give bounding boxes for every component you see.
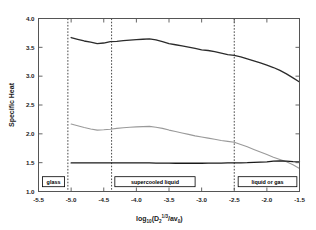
- xtick-label: -3.0: [196, 196, 207, 203]
- xlabel-d-sub: 2: [159, 219, 162, 224]
- xtick-label: -5.5: [33, 196, 44, 203]
- ytick-label: 2.0: [26, 130, 35, 137]
- ytick-label: 3.0: [26, 72, 35, 79]
- specific-heat-plot: -5.5-5.0-4.5-4.0-3.5-3.0-2.5-2.0-1.5 1.0…: [0, 0, 316, 230]
- ytick-label: 1.5: [26, 159, 35, 166]
- xtick-label: -2.0: [262, 196, 273, 203]
- xlabel-mid: /av: [168, 215, 178, 222]
- xtick-label: -5.0: [66, 196, 77, 203]
- xlabel-close: ): [180, 215, 182, 223]
- xtick-label: -4.5: [98, 196, 109, 203]
- xtick-label: -4.0: [131, 196, 142, 203]
- ytick-label: 3.5: [26, 44, 35, 51]
- phase-box-glass: glass: [42, 177, 64, 187]
- phase-box-label: glass: [47, 179, 61, 185]
- xlabel-log: log: [136, 215, 147, 223]
- ytick-label: 2.5: [26, 101, 35, 108]
- xlabel-open: (D: [152, 215, 159, 223]
- chart-figure: -5.5-5.0-4.5-4.0-3.5-3.0-2.5-2.0-1.5 1.0…: [0, 0, 316, 230]
- phase-box-label: liquid or gas: [252, 179, 284, 185]
- phase-box-liquid-or-gas: liquid or gas: [238, 177, 297, 187]
- y-axis-title: Specific Heat: [8, 82, 16, 127]
- ytick-label: 4.0: [26, 15, 35, 22]
- ytick-label: 1.0: [26, 188, 35, 195]
- xtick-label: -3.5: [164, 196, 175, 203]
- phase-box-label: supercooled liquid: [131, 179, 179, 185]
- xtick-label: -2.5: [229, 196, 240, 203]
- phase-box-supercooled-liquid: supercooled liquid: [115, 177, 195, 187]
- xtick-label: -1.5: [294, 196, 305, 203]
